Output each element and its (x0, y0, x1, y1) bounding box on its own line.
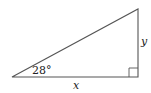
side-x-label: x (73, 79, 80, 92)
right-angle-marker (129, 68, 138, 77)
right-triangle (12, 9, 138, 77)
side-y-label: y (140, 35, 148, 48)
triangle-diagram: 28° x y (0, 0, 151, 93)
angle-label: 28° (32, 64, 52, 77)
